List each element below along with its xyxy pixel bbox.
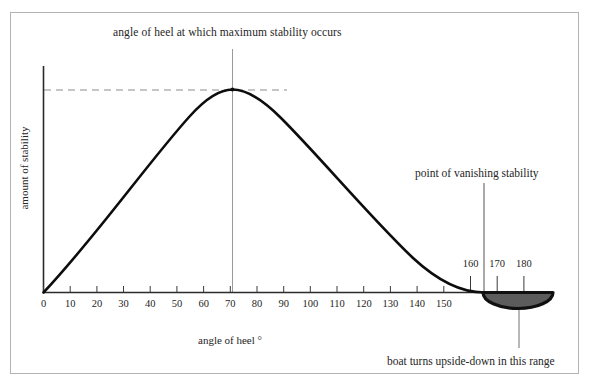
x-tick-label-upper: 180 (510, 258, 538, 269)
x-tick-label: 30 (110, 298, 138, 309)
x-tick-label: 130 (376, 298, 404, 309)
x-tick-label: 50 (163, 298, 191, 309)
x-tick-label-upper: 170 (483, 258, 511, 269)
x-tick-label-upper: 160 (457, 258, 485, 269)
x-tick-label: 150 (430, 298, 458, 309)
x-tick-label: 80 (243, 298, 271, 309)
figure-canvas: angle of heel at which maximum stability… (0, 0, 593, 387)
boat-hull-shape (483, 293, 553, 309)
y-axis-title: amount of stability (18, 113, 30, 223)
x-tick-label: 40 (136, 298, 164, 309)
x-tick-label: 70 (216, 298, 244, 309)
x-tick-label: 0 (30, 298, 58, 309)
vanishing-stability-annotation: point of vanishing stability (415, 167, 539, 179)
x-tick-label: 100 (296, 298, 324, 309)
x-tick-label: 120 (350, 298, 378, 309)
x-tick-label: 60 (190, 298, 218, 309)
x-tick-label: 110 (323, 298, 351, 309)
x-axis-title: angle of heel ° (198, 334, 262, 346)
stability-curve-graphic (0, 0, 593, 387)
chart-title: angle of heel at which maximum stability… (113, 26, 342, 38)
stability-curve-path (44, 90, 485, 293)
x-tick-label: 20 (83, 298, 111, 309)
x-tick-label: 10 (56, 298, 84, 309)
peak-marker (231, 88, 235, 92)
x-tick-label: 140 (403, 298, 431, 309)
x-tick-label: 90 (270, 298, 298, 309)
x-axis-ticks (44, 286, 444, 292)
x-axis-upper-ticks (471, 276, 524, 291)
boat-inversion-annotation: boat turns upside-down in this range (387, 355, 555, 367)
